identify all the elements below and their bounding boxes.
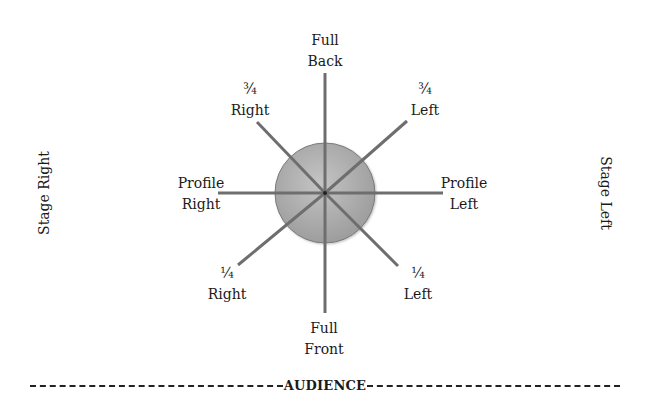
profile-left-label-line2: Left — [441, 194, 488, 215]
profile-left-label-line1: Profile — [441, 173, 488, 194]
full-front-label: FullFront — [304, 318, 343, 360]
dashed-line-right — [367, 385, 620, 387]
quarter-left-label: ¼Left — [404, 263, 432, 305]
full-back-label-line1: Full — [308, 30, 343, 51]
stage-right-label: Stage Right — [36, 151, 52, 235]
three-quarter-left-label-line2: Left — [411, 100, 439, 121]
quarter-right-label: ¼Right — [208, 263, 247, 305]
audience-label: AUDIENCE — [283, 378, 367, 393]
full-front-label-line1: Full — [304, 318, 343, 339]
center-point — [323, 191, 327, 195]
dashed-line-left — [30, 385, 283, 387]
profile-right-label-line1: Profile — [178, 173, 225, 194]
three-quarter-right-label: ¾Right — [231, 79, 270, 121]
quarter-left-label-line1: ¼ — [404, 263, 432, 284]
three-quarter-left-label: ¾Left — [411, 79, 439, 121]
profile-right-label: ProfileRight — [178, 173, 225, 215]
profile-left-label: ProfileLeft — [441, 173, 488, 215]
full-back-label-line2: Back — [308, 51, 343, 72]
audience-line: AUDIENCE — [30, 376, 620, 394]
three-quarter-left-label-line1: ¾ — [411, 79, 439, 100]
quarter-left-label-line2: Left — [404, 284, 432, 305]
full-front-label-line2: Front — [304, 339, 343, 360]
three-quarter-right-label-line2: Right — [231, 100, 270, 121]
three-quarter-right-label-line1: ¾ — [231, 79, 270, 100]
quarter-right-label-line1: ¼ — [208, 263, 247, 284]
full-back-label: FullBack — [308, 30, 343, 72]
profile-right-label-line2: Right — [178, 194, 225, 215]
quarter-right-label-line2: Right — [208, 284, 247, 305]
stage-orientation-diagram: FullBack¾LeftProfileLeft¼LeftFullFront¼R… — [0, 0, 647, 405]
stage-left-label: Stage Left — [598, 156, 614, 230]
